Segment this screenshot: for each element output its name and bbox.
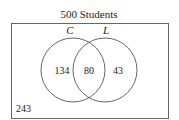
c-only-count: 134 bbox=[55, 65, 70, 76]
intersection-count: 80 bbox=[84, 65, 94, 76]
set-l-label: L bbox=[102, 24, 109, 36]
diagram-title: 500 Students bbox=[60, 8, 117, 20]
outside-count: 243 bbox=[16, 103, 31, 114]
set-c-label: C bbox=[66, 24, 74, 36]
venn-diagram: 500 Students C L 134 80 43 243 bbox=[0, 0, 179, 120]
l-only-count: 43 bbox=[113, 65, 123, 76]
